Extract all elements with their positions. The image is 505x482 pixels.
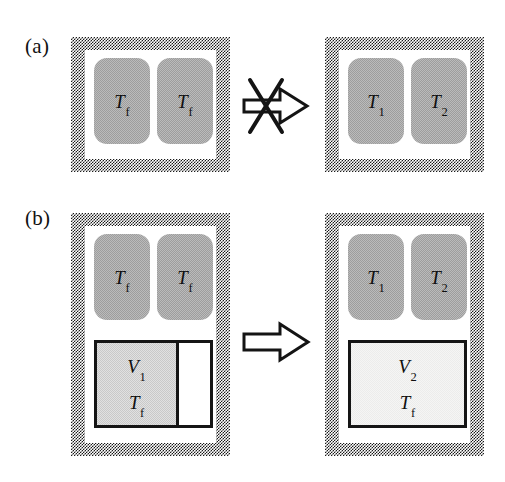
panel-b-before-reservoir-left: Tf <box>94 234 150 320</box>
panel-b-after-reservoir-left-label: T1 <box>367 268 384 287</box>
panel-a-before-vessel-interior: Tf Tf <box>85 50 216 159</box>
panel-b-before-reservoir-left-label: Tf <box>114 268 129 287</box>
figure-root: (a) Tf Tf T1 <box>0 0 505 482</box>
panel-b-gas-v2-volume-label: V2 <box>398 357 416 376</box>
panel-a-before-vessel: Tf Tf <box>71 37 230 172</box>
panel-a-after-reservoir-left: T1 <box>348 58 404 144</box>
panel-b-gas-v1-filled-region: V1 Tf <box>97 343 176 425</box>
panel-b-before-vessel: Tf Tf V1 Tf <box>71 213 230 456</box>
panel-a-after-reservoir-right: T2 <box>411 58 467 144</box>
panel-b-gas-v1-temperature-label: Tf <box>129 393 144 412</box>
panel-b-gas-chamber-v2: V2 Tf <box>348 340 467 428</box>
panel-b-gas-v1-void-region <box>176 343 210 425</box>
panel-a-before-reservoir-right: Tf <box>157 58 213 144</box>
panel-b-process-arrow <box>242 322 312 362</box>
panel-b-before-reservoir-right-label: Tf <box>177 268 192 287</box>
hollow-arrow-shape <box>244 324 308 360</box>
panel-b-gas-v2-temperature-label: Tf <box>400 393 415 412</box>
panel-a-after-vessel-interior: T1 T2 <box>339 50 470 159</box>
panel-a-after-reservoir-left-label: T1 <box>367 92 384 111</box>
panel-b-after-reservoir-right-label: T2 <box>430 268 447 287</box>
panel-b-after-reservoir-left: T1 <box>348 234 404 320</box>
panel-b-after-vessel: T1 T2 V2 Tf <box>325 213 484 456</box>
panel-b-before-reservoir-right: Tf <box>157 234 213 320</box>
panel-a-after-reservoir-right-label: T2 <box>430 92 447 111</box>
panel-a-after-vessel: T1 T2 <box>325 37 484 172</box>
panel-b-after-vessel-interior: T1 T2 V2 Tf <box>339 226 470 443</box>
panel-a-before-reservoir-right-label: Tf <box>177 92 192 111</box>
panel-a-label: (a) <box>25 36 49 57</box>
panel-b-gas-v2-filled-region: V2 Tf <box>351 343 464 425</box>
panel-b-label: (b) <box>25 208 50 229</box>
panel-a-before-reservoir-left: Tf <box>94 58 150 144</box>
panel-b-before-vessel-interior: Tf Tf V1 Tf <box>85 226 216 443</box>
panel-a-before-reservoir-left-label: Tf <box>114 92 129 111</box>
panel-b-after-reservoir-right: T2 <box>411 234 467 320</box>
panel-b-gas-v1-volume-label: V1 <box>127 357 145 376</box>
panel-b-gas-chamber-v1: V1 Tf <box>94 340 213 428</box>
panel-a-forbidden-arrow <box>242 76 310 136</box>
